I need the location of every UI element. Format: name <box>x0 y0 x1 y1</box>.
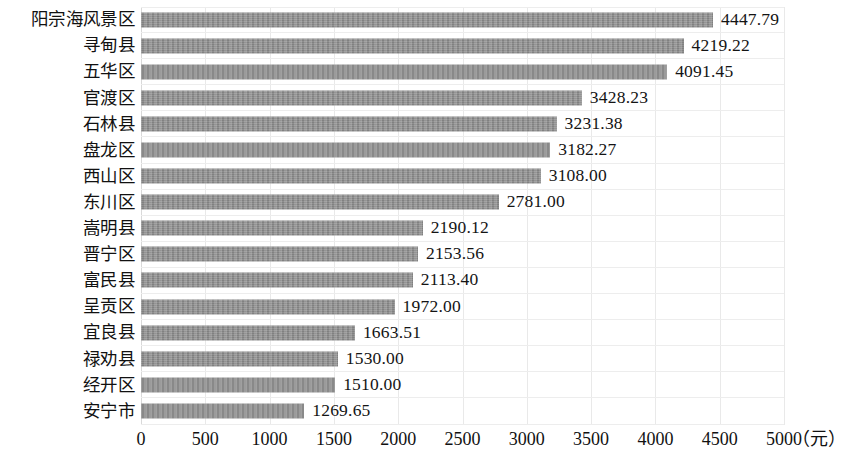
category-row: 晋宁区 <box>0 242 135 268</box>
category-label: 禄劝县 <box>83 351 135 369</box>
category-label: 盘龙区 <box>83 142 135 160</box>
x-tick-label-500: 500 <box>192 430 219 448</box>
category-label: 石林县 <box>83 116 135 134</box>
bar-row: 3428.23 <box>141 85 784 111</box>
bar[interactable] <box>141 299 395 314</box>
bar-value-label: 1663.51 <box>363 324 421 342</box>
x-tick-label-1000: 1000 <box>252 430 288 448</box>
bar[interactable] <box>141 325 355 340</box>
bar-row: 4219.22 <box>141 33 784 59</box>
x-axis: （元） 050010001500200025003000350040004500… <box>0 430 841 460</box>
bar[interactable] <box>141 116 557 131</box>
category-row: 经开区 <box>0 372 135 398</box>
category-row: 石林县 <box>0 111 135 137</box>
bar-value-label: 2190.12 <box>431 220 489 238</box>
category-label: 呈贡区 <box>83 298 135 316</box>
bar-row: 4447.79 <box>141 7 784 33</box>
category-row: 阳宗海风景区 <box>0 7 135 33</box>
category-label: 安宁市 <box>83 403 135 421</box>
category-label: 晋宁区 <box>83 246 135 264</box>
category-row: 东川区 <box>0 190 135 216</box>
category-label: 富民县 <box>83 272 135 290</box>
bar-row: 1269.65 <box>141 398 784 424</box>
category-row: 官渡区 <box>0 85 135 111</box>
category-label: 东川区 <box>83 194 135 212</box>
bar-value-label: 4091.45 <box>675 63 733 81</box>
bar-row: 3108.00 <box>141 164 784 190</box>
category-axis: 阳宗海风景区寻甸县五华区官渡区石林县盘龙区西山区东川区嵩明县晋宁区富民县呈贡区宜… <box>0 7 135 425</box>
bar[interactable] <box>141 221 423 236</box>
x-tick-label-3000: 3000 <box>509 430 545 448</box>
bar-value-label: 3108.00 <box>549 167 607 185</box>
bar[interactable] <box>141 38 684 53</box>
bar-value-label: 4447.79 <box>721 11 779 29</box>
bar-row: 3231.38 <box>141 111 784 137</box>
bar[interactable] <box>141 195 499 210</box>
category-label: 寻甸县 <box>83 37 135 55</box>
bar-value-label: 1972.00 <box>403 298 461 316</box>
bar-value-label: 2113.40 <box>421 272 479 290</box>
x-tick-label-3500: 3500 <box>573 430 609 448</box>
bar-row: 2153.56 <box>141 242 784 268</box>
bar-value-label: 2153.56 <box>426 246 484 264</box>
category-label: 五华区 <box>83 63 135 81</box>
x-tick-label-5000: 5000 <box>766 430 802 448</box>
category-row: 安宁市 <box>0 398 135 424</box>
bar[interactable] <box>141 13 713 28</box>
gridline-x-5000 <box>784 7 785 425</box>
category-label: 官渡区 <box>83 90 135 108</box>
bar-row: 1530.00 <box>141 346 784 372</box>
bar[interactable] <box>141 143 550 158</box>
category-label: 西山区 <box>83 168 135 186</box>
bar-row: 1510.00 <box>141 372 784 398</box>
bar-value-label: 3231.38 <box>565 115 623 133</box>
bar-row: 2781.00 <box>141 190 784 216</box>
category-row: 五华区 <box>0 59 135 85</box>
category-row: 盘龙区 <box>0 137 135 163</box>
bar-row: 3182.27 <box>141 137 784 163</box>
bar[interactable] <box>141 377 335 392</box>
category-row: 富民县 <box>0 268 135 294</box>
category-label: 经开区 <box>83 377 135 395</box>
bar-value-label: 1269.65 <box>312 402 370 420</box>
category-row: 西山区 <box>0 164 135 190</box>
bar[interactable] <box>141 247 418 262</box>
bar-value-label: 3428.23 <box>590 89 648 107</box>
bar[interactable] <box>141 403 304 418</box>
bar-value-label: 1530.00 <box>346 350 404 368</box>
x-tick-label-0: 0 <box>137 430 146 448</box>
bar[interactable] <box>141 64 667 79</box>
category-label: 宜良县 <box>83 324 135 342</box>
bar[interactable] <box>141 351 338 366</box>
bar-row: 1663.51 <box>141 320 784 346</box>
category-label: 阳宗海风景区 <box>31 11 135 29</box>
bar-value-label: 1510.00 <box>343 376 401 394</box>
x-tick-label-2500: 2500 <box>445 430 481 448</box>
category-row: 嵩明县 <box>0 216 135 242</box>
category-row: 宜良县 <box>0 320 135 346</box>
x-tick-label-4000: 4000 <box>637 430 673 448</box>
category-row: 呈贡区 <box>0 294 135 320</box>
plot-area: 4447.794219.224091.453428.233231.383182.… <box>141 7 784 425</box>
bar-value-label: 3182.27 <box>558 141 616 159</box>
bar-value-label: 2781.00 <box>507 193 565 211</box>
category-label: 嵩明县 <box>83 220 135 238</box>
bar-row: 4091.45 <box>141 59 784 85</box>
bar-rows: 4447.794219.224091.453428.233231.383182.… <box>141 7 784 425</box>
bar-row: 1972.00 <box>141 294 784 320</box>
x-tick-label-4500: 4500 <box>702 430 738 448</box>
bar[interactable] <box>141 90 582 105</box>
bar-row: 2113.40 <box>141 268 784 294</box>
category-row: 寻甸县 <box>0 33 135 59</box>
bar-value-label: 4219.22 <box>692 37 750 55</box>
category-row: 禄劝县 <box>0 346 135 372</box>
horizontal-bar-chart: 阳宗海风景区寻甸县五华区官渡区石林县盘龙区西山区东川区嵩明县晋宁区富民县呈贡区宜… <box>0 0 841 460</box>
x-tick-label-1500: 1500 <box>316 430 352 448</box>
bar[interactable] <box>141 169 541 184</box>
bar[interactable] <box>141 273 413 288</box>
bar-row: 2190.12 <box>141 216 784 242</box>
x-tick-label-2000: 2000 <box>380 430 416 448</box>
